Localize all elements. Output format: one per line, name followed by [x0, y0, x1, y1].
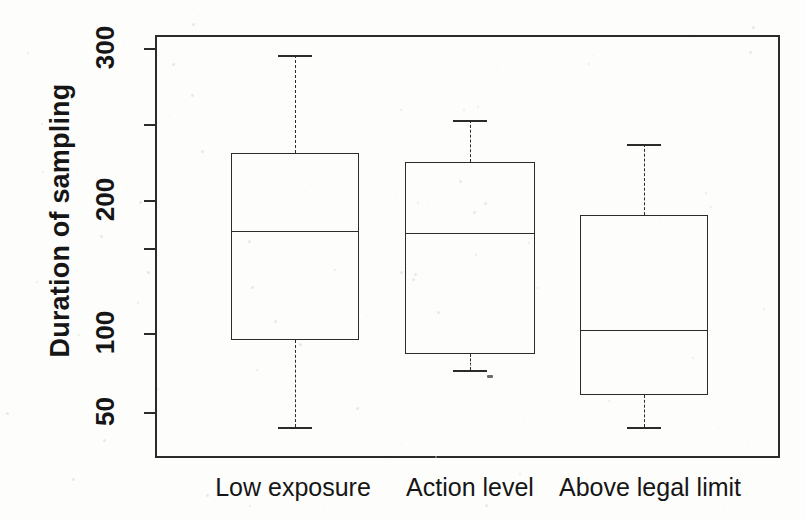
speckle-dot — [78, 334, 80, 336]
speckle-dot — [323, 510, 324, 511]
speckle-dot — [412, 278, 415, 281]
speckle-dot — [749, 51, 752, 54]
speckle-dot — [100, 331, 103, 334]
median-line — [580, 330, 708, 331]
speckle-dot — [496, 69, 497, 70]
speckle-dot — [608, 400, 610, 402]
speckle-dot — [251, 286, 254, 289]
speckle-dot — [592, 55, 593, 56]
speckle-dot — [256, 369, 258, 371]
speckle-dot — [427, 206, 428, 207]
speckle-dot — [123, 45, 124, 46]
speckle-dot — [581, 355, 582, 356]
whisker-lower — [644, 395, 645, 427]
y-tick-label-100: 100 — [90, 301, 121, 365]
speckle-dot — [435, 456, 437, 458]
speckle-dot — [519, 473, 521, 475]
speckle-dot — [460, 482, 461, 483]
speckle-dot — [588, 63, 590, 65]
speckle-dot — [437, 311, 440, 314]
speckle-dot — [36, 281, 38, 283]
speckle-dot — [752, 26, 755, 29]
speckle-dot — [68, 106, 69, 107]
speckle-dot — [42, 171, 44, 173]
speckle-dot — [305, 191, 306, 192]
speckle-dot — [484, 202, 487, 205]
speckle-dot — [110, 457, 111, 458]
x-label-above-legal-limit: Above legal limit — [530, 473, 770, 502]
speckle-dot — [334, 269, 336, 271]
speckle-dot — [367, 316, 368, 317]
speckle-dot — [748, 443, 749, 444]
speckle-dot — [475, 254, 477, 256]
speckle-dot — [191, 94, 194, 97]
speckle-dot — [400, 109, 402, 111]
speckle-dot — [198, 15, 199, 16]
scan-artifact-speck — [487, 375, 493, 378]
speckle-dot — [395, 199, 396, 200]
speckle-dot — [248, 240, 251, 243]
y-tick-label-200: 200 — [90, 168, 121, 232]
speckle-dot — [137, 302, 139, 304]
speckle-dot — [6, 412, 9, 415]
speckle-dot — [103, 439, 106, 442]
speckle-dot — [172, 63, 175, 66]
x-label-low-exposure: Low exposure — [183, 473, 403, 502]
speckle-dot — [206, 494, 209, 497]
box-plot-group — [157, 37, 778, 456]
speckle-dot — [100, 235, 103, 238]
speckle-dot — [25, 245, 26, 246]
speckle-dot — [482, 151, 483, 152]
speckle-dot — [730, 57, 731, 58]
speckle-dot — [524, 420, 525, 421]
speckle-dot — [157, 388, 159, 390]
speckle-dot — [385, 294, 386, 295]
speckle-dot — [470, 364, 472, 366]
speckle-dot — [356, 407, 359, 410]
speckle-dot — [385, 458, 386, 459]
speckle-dot — [147, 271, 150, 274]
speckle-dot — [754, 120, 755, 121]
speckle-dot — [417, 202, 419, 204]
speckle-dot — [168, 116, 169, 117]
speckle-dot — [401, 117, 402, 118]
speckle-dot — [463, 109, 465, 111]
y-axis-title: Duration of sampling — [45, 11, 76, 431]
speckle-dot — [298, 184, 299, 185]
speckle-dot — [485, 504, 488, 507]
speckle-dot — [400, 443, 401, 444]
speckle-dot — [477, 106, 479, 108]
speckle-dot — [299, 343, 302, 346]
speckle-dot — [133, 270, 134, 271]
y-tick-label-300: 300 — [90, 16, 121, 80]
speckle-dot — [162, 79, 163, 80]
speckle-dot — [794, 138, 795, 139]
plot-area — [155, 35, 780, 458]
speckle-dot — [274, 320, 277, 323]
speckle-dot — [192, 23, 195, 26]
speckle-dot — [400, 271, 403, 274]
speckle-dot — [27, 52, 29, 54]
whisker-cap-upper — [627, 144, 661, 146]
speckle-dot — [692, 357, 694, 359]
speckle-dot — [723, 505, 724, 506]
speckle-dot — [660, 220, 661, 221]
speckle-dot — [719, 428, 720, 429]
speckle-dot — [763, 308, 765, 310]
speckle-dot — [394, 306, 395, 307]
speckle-dot — [693, 34, 694, 35]
speckle-dot — [437, 471, 438, 472]
speckle-dot — [528, 242, 530, 244]
box-plot-figure: Duration of sampling 30020010050 Low exp… — [0, 0, 806, 520]
speckle-dot — [467, 363, 468, 364]
speckle-dot — [41, 123, 43, 125]
speckle-dot — [139, 201, 142, 204]
speckle-dot — [72, 478, 75, 481]
box-iqr — [580, 215, 708, 395]
speckle-dot — [705, 192, 707, 194]
speckle-dot — [710, 206, 712, 208]
speckle-dot — [201, 150, 204, 153]
speckle-dot — [249, 505, 251, 507]
whisker-upper — [644, 144, 645, 215]
speckle-dot — [537, 287, 539, 289]
